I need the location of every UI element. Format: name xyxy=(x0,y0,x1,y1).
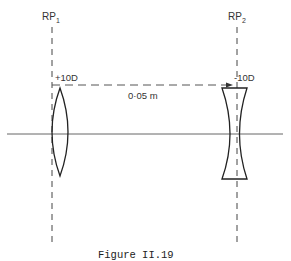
rp1-label: RP1 xyxy=(42,11,60,24)
separation-label: 0·05 m xyxy=(128,90,158,101)
optics-diagram: RP1 RP2 +10D -10D 0·05 m Figure II.19 xyxy=(0,0,291,261)
figure-caption: Figure II.19 xyxy=(98,249,174,261)
convex-lens xyxy=(52,88,68,176)
arrow-head-icon xyxy=(226,83,233,88)
rp2-label: RP2 xyxy=(228,11,246,24)
convex-power-label: +10D xyxy=(55,72,78,83)
concave-power-label: -10D xyxy=(234,72,255,83)
